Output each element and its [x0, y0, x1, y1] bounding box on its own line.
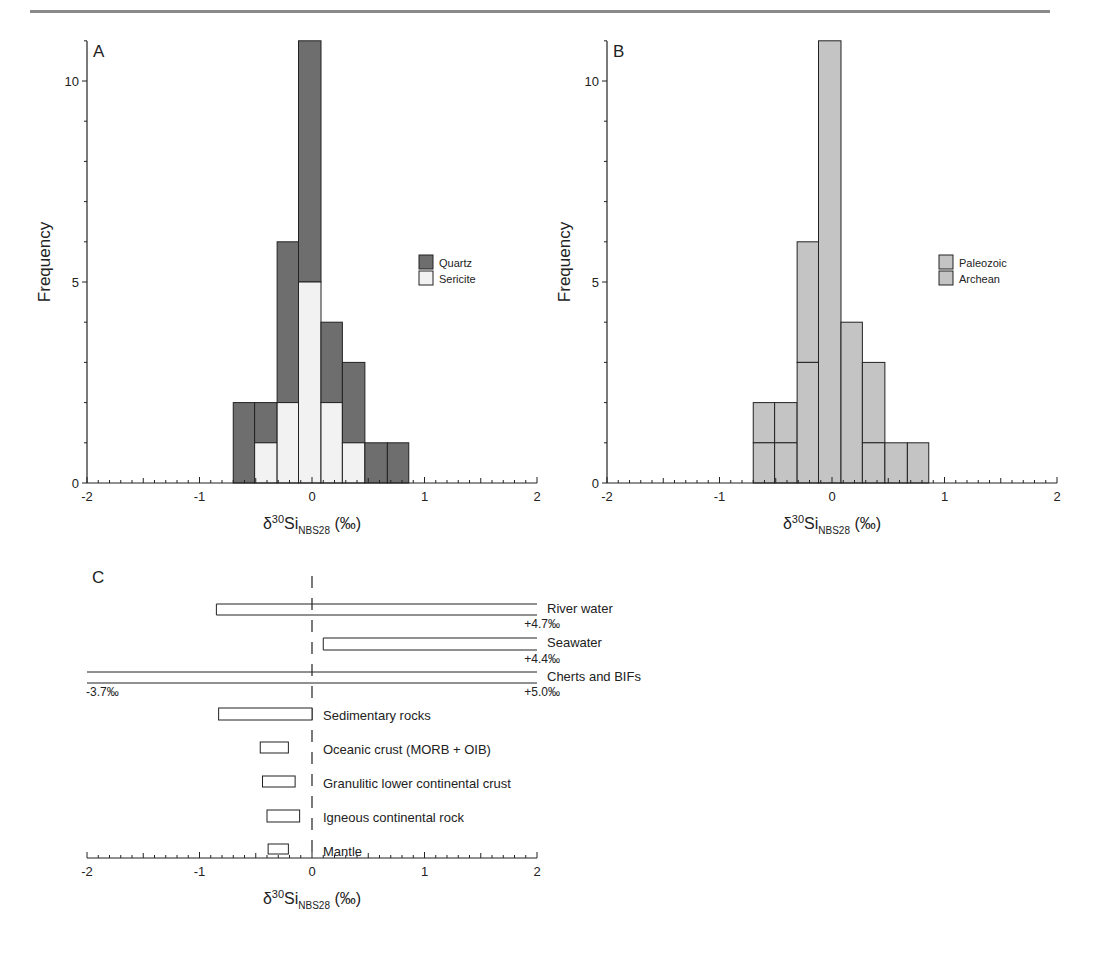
x-tick-label: -2	[601, 489, 613, 504]
legend-swatch-sericite	[419, 271, 433, 285]
x-tick-label: 0	[828, 489, 835, 504]
bar-archean	[862, 443, 885, 483]
range-river-water-label: River water	[547, 601, 613, 616]
range-river-water-max-label: +4.7‰	[524, 617, 560, 631]
bar-sericite	[342, 443, 365, 483]
range-cherts-and-bifs-min-label: -3.7‰	[86, 685, 119, 699]
x-tick-label: -1	[714, 489, 726, 504]
x-axis-label: δ30SiNBS28 (‰)	[263, 513, 361, 536]
y-tick-label: 0	[72, 476, 79, 491]
bar-quartz	[233, 403, 254, 483]
y-axis-label: Frequency	[35, 221, 54, 302]
bar-quartz	[365, 443, 388, 483]
histogram-panel-a: 0510FrequencyA-2-1012δ30SiNBS28 (‰)Quart…	[35, 41, 541, 536]
bar-archean	[775, 443, 798, 483]
bar-archean	[753, 443, 774, 483]
range-granulitic-lower-continental-crust-bar	[263, 776, 296, 787]
bar-archean	[907, 443, 928, 483]
range-oceanic-crust-morb-oib-label: Oceanic crust (MORB + OIB)	[323, 742, 491, 757]
x-axis-label: δ30SiNBS28 (‰)	[783, 513, 881, 536]
range-igneous-continental-rock-label: Igneous continental rock	[323, 810, 464, 825]
panel-label: B	[613, 42, 624, 61]
range-oceanic-crust-morb-oib-bar	[260, 742, 288, 753]
range-mantle-label: Mantle	[323, 844, 362, 859]
x-tick-label: -2	[81, 864, 93, 879]
panel-label: C	[92, 568, 104, 587]
range-river-water-bar	[216, 604, 537, 615]
bar-quartz	[387, 443, 408, 483]
y-tick-label: 10	[65, 74, 79, 89]
range-mantle-bar	[268, 844, 288, 854]
bar-quartz	[299, 41, 322, 282]
range-sedimentary-rocks-bar	[219, 708, 312, 720]
bar-archean	[885, 443, 908, 483]
range-seawater-max-label: +4.4‰	[524, 652, 560, 666]
x-tick-label: 2	[533, 864, 540, 879]
bar-paleozoic	[775, 403, 798, 443]
panel-label: A	[93, 42, 105, 61]
figure: 0510FrequencyA-2-1012δ30SiNBS28 (‰)Quart…	[0, 0, 1096, 960]
x-tick-label: -2	[81, 489, 93, 504]
legend-label-sericite: Sericite	[439, 273, 476, 285]
bar-paleozoic	[797, 242, 818, 363]
bar-archean	[841, 322, 862, 483]
x-axis-label: δ30SiNBS28 (‰)	[263, 888, 361, 911]
bar-sericite	[255, 443, 278, 483]
bar-quartz	[277, 242, 298, 403]
bar-archean	[819, 41, 842, 483]
x-tick-label: 2	[533, 489, 540, 504]
bar-paleozoic	[862, 362, 885, 442]
y-tick-label: 5	[72, 275, 79, 290]
x-tick-label: 2	[1053, 489, 1060, 504]
y-tick-label: 10	[585, 74, 599, 89]
y-axis-label: Frequency	[555, 221, 574, 302]
bar-quartz	[255, 403, 278, 443]
range-cherts-and-bifs-label: Cherts and BIFs	[547, 669, 641, 684]
y-tick-label: 0	[592, 476, 599, 491]
y-tick-label: 5	[592, 275, 599, 290]
legend-swatch-quartz	[419, 255, 433, 269]
legend-swatch-archean	[939, 271, 953, 285]
bar-sericite	[299, 282, 322, 483]
legend-label-archean: Archean	[959, 273, 1000, 285]
bar-sericite	[321, 403, 342, 483]
bar-quartz	[321, 322, 342, 402]
bar-sericite	[277, 403, 298, 483]
legend-label-paleozoic: Paleozoic	[959, 257, 1007, 269]
legend-label-quartz: Quartz	[439, 257, 472, 269]
x-tick-label: 0	[308, 864, 315, 879]
range-seawater-label: Seawater	[547, 635, 603, 650]
histogram-panel-b: 0510FrequencyB-2-1012δ30SiNBS28 (‰)Paleo…	[555, 41, 1061, 536]
range-cherts-and-bifs-max-label: +5.0‰	[524, 685, 560, 699]
range-seawater-bar	[323, 638, 537, 650]
x-tick-label: 1	[421, 864, 428, 879]
x-tick-label: 1	[421, 489, 428, 504]
bar-quartz	[342, 362, 365, 442]
bar-paleozoic	[753, 403, 774, 443]
x-tick-label: 0	[308, 489, 315, 504]
x-tick-label: -1	[194, 489, 206, 504]
range-igneous-continental-rock-bar	[267, 810, 300, 822]
range-sedimentary-rocks-label: Sedimentary rocks	[323, 708, 431, 723]
legend-swatch-paleozoic	[939, 255, 953, 269]
range-granulitic-lower-continental-crust-label: Granulitic lower continental crust	[323, 776, 511, 791]
range-panel-c: CRiver water+4.7‰Seawater+4.4‰Cherts and…	[81, 568, 641, 911]
x-tick-label: -1	[194, 864, 206, 879]
x-tick-label: 1	[941, 489, 948, 504]
bar-archean	[797, 362, 818, 483]
